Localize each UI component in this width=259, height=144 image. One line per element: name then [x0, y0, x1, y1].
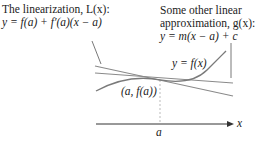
linearization-leader-line [92, 41, 101, 64]
x-axis-label: x [237, 117, 242, 130]
linearization-label: The linearization, L(x): y = f(a) + f′(a… [2, 3, 110, 29]
other-approximation-label-line3: y = m(x − a) + c [160, 30, 255, 43]
x-tick-label-a: a [156, 126, 162, 139]
linearization-label-line2: y = f(a) + f′(a)(x − a) [2, 16, 110, 29]
other-approximation-label-line1: Some other linear [160, 4, 255, 17]
tangent-point-label: (a, f(a)) [121, 85, 157, 98]
x-axis-arrowhead [227, 121, 234, 127]
other-approximation-label: Some other linear approximation, g(x): y… [160, 4, 255, 43]
linearization-label-line1: The linearization, L(x): [2, 3, 110, 16]
curve-label: y = f(x) [172, 57, 207, 70]
other-approximation-label-line2: approximation, g(x): [160, 17, 255, 30]
